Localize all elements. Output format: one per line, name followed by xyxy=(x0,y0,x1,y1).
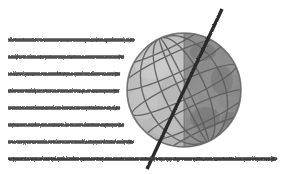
diagram-canvas xyxy=(0,0,287,174)
globe-illumination-diagram xyxy=(0,0,287,174)
